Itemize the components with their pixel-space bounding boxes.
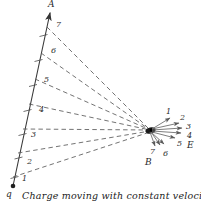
label-point-a: A [48, 0, 55, 9]
figure-caption: Charge moving with constant velocity [22, 190, 201, 201]
dashed-ray-2 [18, 131, 150, 153]
field-label-3: 3 [186, 123, 191, 131]
charge-dot [11, 184, 16, 189]
label-point-q: q [6, 190, 12, 199]
dashed-ray-7 [47, 27, 150, 130]
field-label-6: 6 [163, 150, 168, 158]
dashed-ray-3 [23, 129, 150, 130]
dashed-rays [13, 27, 150, 177]
worldline-label-4: 4 [39, 106, 44, 114]
field-label-5: 5 [177, 140, 182, 148]
field-label-1: 1 [166, 108, 171, 116]
worldline-label-6: 6 [51, 47, 56, 55]
field-label-2: 2 [180, 114, 185, 122]
worldline-label-5: 5 [44, 76, 49, 84]
dashed-ray-6 [41, 53, 150, 130]
worldline-label-1: 1 [22, 175, 27, 183]
dashed-ray-5 [35, 79, 150, 130]
worldline-label-2: 2 [27, 158, 32, 166]
field-label-7: 7 [150, 148, 155, 156]
figure-canvas: A q B E 7 6 5 4 3 2 1 1 2 3 4 5 6 7 Char… [0, 0, 201, 211]
field-label-4: 4 [187, 132, 192, 140]
worldline-label-3: 3 [31, 131, 36, 139]
worldline-label-7: 7 [56, 21, 61, 29]
label-point-b: B [145, 158, 152, 167]
label-field-e: E [187, 141, 194, 150]
physics-diagram [0, 0, 201, 211]
field-arrow-5 [152, 132, 175, 138]
